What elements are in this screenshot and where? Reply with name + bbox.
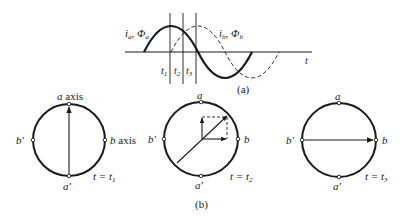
space-vector-panel-t1: a axis a′ b′ b axis t = t1 [16,90,136,192]
terminal-b-prime [300,138,304,142]
terminal-b [374,138,378,142]
terminal-b [103,138,107,142]
b-label: b [382,134,388,146]
curve-b-label: ib, Φb [219,27,243,41]
terminal-b-prime [162,137,166,141]
b-prime-label: b′ [148,133,157,145]
space-vector-panel-t3: a a′ b′ b t = t3 [286,90,388,192]
time-label: t = t3 [365,170,388,184]
space-vector-panel-t2: a a′ b′ b t = t2 [148,89,253,191]
time-label: t = t1 [93,170,116,184]
a-axis-label: a axis [57,90,83,102]
b-label: b [244,133,250,145]
rotating-field-figure: t t1 t2 t3 ia, Φa ib, Φb (a) a axis a′ b… [0,0,408,223]
time-label: t = t2 [230,170,253,184]
terminal-a-prime [337,175,341,179]
b-axis-label: b axis [110,134,136,146]
time-marker-label-t1: t1 [161,65,167,78]
waveform-plot: t t1 t2 t3 ia, Φa ib, Φb (a) [125,13,312,96]
time-marker-label-t3: t3 [186,65,193,78]
part-a-caption: (a) [237,83,250,96]
b-prime-label: b′ [16,134,25,146]
a-label: a [335,90,341,102]
terminal-b [236,137,240,141]
a-prime-label: a′ [333,180,342,192]
a-prime-label: a′ [195,179,204,191]
time-marker-label-t2: t2 [174,65,181,78]
terminal-a [67,102,71,106]
time-axis-label: t [305,55,308,66]
terminal-a-prime [199,174,203,178]
curve-a-label: ia, Φa [125,27,149,41]
b-prime-label: b′ [286,134,295,146]
a-prime-label: a′ [63,180,72,192]
part-b-caption: (b) [195,198,208,211]
terminal-b-prime [31,138,35,142]
terminal-a-prime [67,174,71,178]
a-label: a [197,89,203,101]
